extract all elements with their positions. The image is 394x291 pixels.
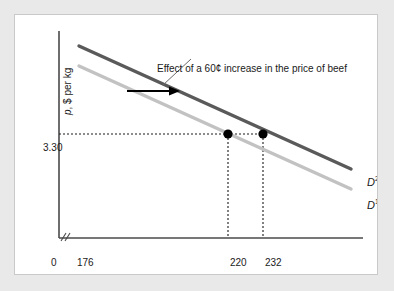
x-tick-label-0: 0 <box>51 258 57 268</box>
equilibrium-point-d2 <box>258 129 267 138</box>
curve-label-d2-superscript: 2 <box>375 175 378 182</box>
curve-label-d2: D2 <box>367 175 378 188</box>
curve-label-d2-letter: D <box>367 176 375 188</box>
demand-curve-d1 <box>79 66 351 189</box>
curve-label-d1: D1 <box>367 198 378 211</box>
shift-arrow-icon <box>127 87 180 96</box>
curve-label-d1-letter: D <box>367 199 375 211</box>
chart-panel: p, $ per kg Q, Million kg of pork per ye… <box>14 14 378 275</box>
x-axis-title: Q, Million kg of pork per year <box>230 274 358 275</box>
y-axis-title: p, $ per kg <box>63 68 73 115</box>
y-axis-title-symbol: p <box>62 109 73 115</box>
demand-curve-plot <box>15 15 377 274</box>
y-axis-title-units: , $ per kg <box>62 68 73 110</box>
axis-break-icon <box>61 233 70 241</box>
curve-label-d1-superscript: 1 <box>375 198 378 205</box>
x-axis-title-symbol: Q <box>230 273 238 275</box>
figure-root: p, $ per kg Q, Million kg of pork per ye… <box>0 0 394 291</box>
y-tick-label-330: 3.30 <box>43 143 62 153</box>
x-tick-label-232: 232 <box>265 258 282 268</box>
shift-annotation-text: Effect of a 60¢ increase in the price of… <box>157 64 347 74</box>
x-tick-label-176: 176 <box>77 258 94 268</box>
x-axis-title-units: , Million kg of pork per year <box>238 273 358 275</box>
equilibrium-point-d1 <box>223 129 232 138</box>
x-tick-label-220: 220 <box>230 258 247 268</box>
